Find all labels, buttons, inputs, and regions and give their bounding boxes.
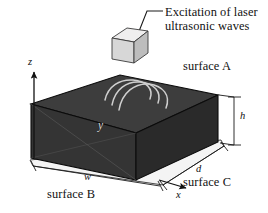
excitation-callout-line1: Excitation of laser	[165, 6, 258, 20]
y-axis-label: y	[98, 119, 103, 132]
width-dimension-label: w	[84, 171, 91, 183]
surface-b-label: surface B	[47, 188, 95, 202]
depth-dimension-label: d	[196, 163, 201, 175]
surface-a-label: surface A	[183, 60, 231, 74]
excitation-callout-line2: ultrasonic waves	[165, 20, 258, 34]
surface-c-label: surface C	[183, 176, 231, 190]
z-axis-label: z	[28, 56, 32, 68]
excitation-callout-label: Excitation of laser ultrasonic waves	[165, 6, 258, 34]
laser-source-cube	[112, 28, 148, 63]
surface-a-pointer	[200, 76, 206, 84]
dimension-line-h	[219, 95, 241, 145]
figure-canvas: Excitation of laser ultrasonic waves sur…	[0, 0, 268, 213]
x-axis-label: x	[176, 189, 181, 201]
height-dimension-label: h	[240, 110, 245, 122]
